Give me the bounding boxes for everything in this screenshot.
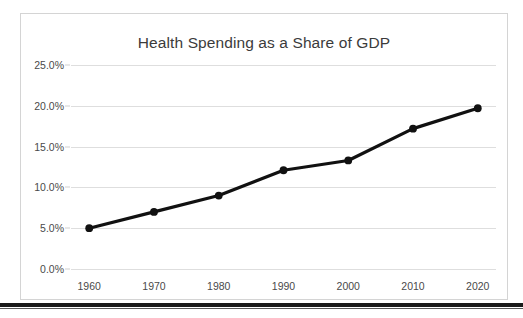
gridline-0.0 [71,269,496,270]
x-axis-label: 1980 [207,280,230,292]
y-axis-tick-mark [65,269,70,270]
x-axis-label: 2020 [466,280,489,292]
y-axis-label: 15.0% [34,141,64,153]
chart-title: Health Spending as a Share of GDP [21,34,507,52]
data-point-1970 [150,208,158,216]
chart-page: Health Spending as a Share of GDP 0.0%5.… [0,0,523,318]
line-series-chart [71,65,496,269]
plot-area: 0.0%5.0%10.0%15.0%20.0%25.0% 19601970198… [71,65,496,269]
x-axis-label: 2000 [337,280,360,292]
y-axis-label: 0.0% [40,263,64,275]
x-axis-label: 1960 [78,280,101,292]
bottom-divider-rule [0,303,523,307]
x-axis-label: 2010 [401,280,424,292]
y-axis-tick-mark [65,146,70,147]
data-point-1980 [215,192,223,200]
data-point-1960 [85,224,93,232]
y-axis-label: 20.0% [34,100,64,112]
y-axis-label: 5.0% [40,222,64,234]
data-point-1990 [280,166,288,174]
x-axis-label: 1990 [272,280,295,292]
bottom-divider-rule-secondary [0,308,523,309]
data-point-2000 [344,157,352,165]
y-axis-label: 25.0% [34,59,64,71]
chart-frame: Health Spending as a Share of GDP 0.0%5.… [20,13,508,300]
y-axis-tick-mark [65,187,70,188]
y-axis-label: 10.0% [34,181,64,193]
y-axis-tick-mark [65,105,70,106]
data-point-2010 [409,125,417,133]
data-point-2020 [474,104,482,112]
y-axis-tick-mark [65,65,70,66]
y-axis-tick-mark [65,228,70,229]
x-axis-label: 1970 [142,280,165,292]
